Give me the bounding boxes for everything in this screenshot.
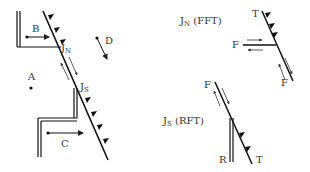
- thrust-fault: [43, 11, 108, 160]
- inset-jn-title: JN (FFT): [179, 15, 222, 28]
- label-t: T: [252, 8, 259, 19]
- label-f: F: [204, 79, 211, 90]
- diagram-canvas: B C D A JN JS JN (FFT) T F F J: [0, 0, 310, 172]
- inset-js-rft: JS (RFT) F R T: [162, 79, 263, 165]
- label-f-bottom: F: [281, 77, 288, 88]
- inset-jn-fft: JN (FFT) T F F: [179, 8, 293, 88]
- inset-jn-thrust: [262, 11, 293, 81]
- junction-diagram: B C D A JN JS JN (FFT) T F F J: [0, 0, 310, 172]
- inset-js-title: JS (RFT): [162, 115, 204, 128]
- label-c: C: [61, 138, 69, 149]
- lower-fault-bend: [38, 88, 77, 157]
- label-d: D: [105, 35, 113, 46]
- label-r: R: [219, 154, 227, 165]
- point-a: [29, 86, 32, 89]
- slip-arrow-up: [61, 63, 69, 80]
- label-t-bottom: T: [256, 154, 263, 165]
- label-b: B: [32, 23, 39, 34]
- label-a: A: [27, 71, 36, 82]
- main-map: B C D A JN JS: [17, 11, 113, 160]
- thrust-teeth: [48, 14, 109, 144]
- slip-arrow-up: [214, 91, 220, 106]
- label-js: JS: [79, 81, 89, 94]
- label-f-left: F: [232, 39, 239, 50]
